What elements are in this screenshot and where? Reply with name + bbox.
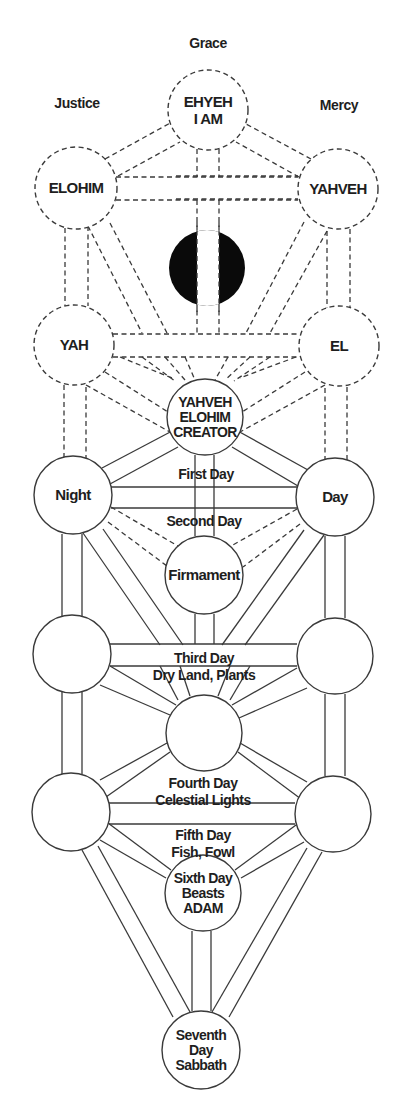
node-circle: [166, 695, 242, 771]
node-label: YAHVEH: [178, 394, 232, 410]
path-label-third-day: Third Day: [174, 650, 235, 666]
path-label-fourth-day: Celestial Lights: [155, 792, 251, 808]
node-label: EHYEH: [184, 93, 233, 110]
node-sixth-day: Sixth DayBeastsADAM: [165, 855, 241, 931]
node-left-mid: [33, 615, 111, 693]
path-label-fifth-day: Fifth Day: [175, 827, 231, 843]
node-yah: YAH: [34, 305, 114, 385]
path-label-first-day: First Day: [178, 466, 234, 482]
node-label: I AM: [194, 110, 223, 127]
node-yahveh: YAHVEH: [298, 149, 378, 229]
tree-of-life-diagram: EHYEHI AMELOHIMYAHVEHYAHELYAHVEHELOHIMCR…: [0, 0, 401, 1114]
node-right-mid: [297, 618, 373, 694]
node-label: YAHVEH: [309, 180, 367, 197]
node-label: Sabbath: [175, 1057, 226, 1073]
node-center: [166, 695, 242, 771]
path-label-fourth-day: Fourth Day: [169, 775, 239, 791]
node-circle: [32, 773, 110, 851]
node-day: Day: [296, 458, 374, 536]
node-firmament: Firmament: [165, 536, 243, 614]
node-label: ELOHIM: [49, 179, 104, 196]
node-label: Day: [189, 1042, 214, 1058]
daath-gap: [197, 228, 219, 308]
node-label: Day: [322, 488, 349, 505]
node-label: Night: [55, 486, 91, 503]
node-seventh-day: SeventhDaySabbath: [162, 1011, 240, 1089]
node-circle: [295, 776, 371, 852]
node-right-low: [295, 776, 371, 852]
node-label: Seventh: [176, 1027, 226, 1043]
node-circle: [297, 618, 373, 694]
pillar-label-grace: Grace: [189, 35, 227, 51]
node-label: CREATOR: [173, 424, 237, 440]
node-label: Beasts: [182, 885, 225, 901]
node-el: EL: [299, 306, 379, 386]
path-label-second-day: Second Day: [166, 513, 242, 529]
pillar-label-mercy: Mercy: [320, 97, 359, 113]
node-creator: YAHVEHELOHIMCREATOR: [167, 379, 243, 455]
node-label: ELOHIM: [180, 409, 231, 425]
node-night: Night: [34, 456, 112, 534]
pillar-label-justice: Justice: [54, 95, 100, 111]
node-ehyeh: EHYEHI AM: [168, 70, 248, 150]
path-label-fifth-day: Fish, Fowl: [171, 844, 234, 860]
node-label: YAH: [60, 336, 89, 353]
node-label: EL: [330, 337, 348, 354]
node-left-low: [32, 773, 110, 851]
node-label: Sixth Day: [174, 870, 233, 886]
node-label: Firmament: [168, 566, 240, 583]
path-label-third-day: Dry Land, Plants: [153, 667, 256, 683]
node-label: ADAM: [183, 900, 223, 916]
node-elohim: ELOHIM: [35, 147, 117, 229]
node-circle: [33, 615, 111, 693]
